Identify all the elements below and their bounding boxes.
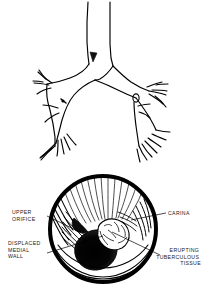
medical-illustration: UPPER ORIFICE CARINA DISPLACED MEDIAL WA… <box>0 0 206 301</box>
label-upper-orifice: UPPER ORIFICE <box>12 209 36 222</box>
bronchoscopic-view <box>49 175 157 283</box>
label-carina: CARINA <box>168 210 190 216</box>
erupting-tuberculous-tissue-mass <box>98 219 129 250</box>
